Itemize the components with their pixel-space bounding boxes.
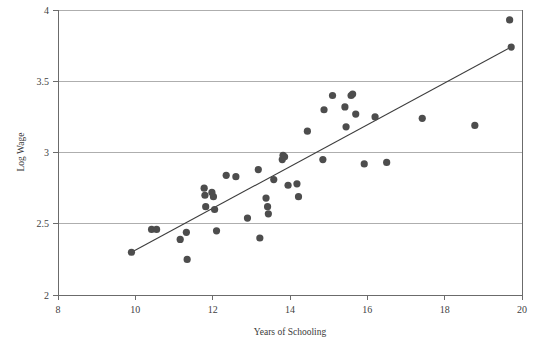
fit-line [131, 47, 511, 252]
data-point [342, 123, 349, 130]
x-axis-title: Years of Schooling [254, 327, 327, 337]
data-point [471, 122, 478, 129]
data-point [256, 234, 263, 241]
data-point [319, 156, 326, 163]
data-point [183, 229, 190, 236]
data-point [232, 173, 239, 180]
data-point [352, 110, 359, 117]
data-point [128, 249, 135, 256]
regression-line [131, 47, 511, 252]
data-point [184, 256, 191, 263]
x-tick-label: 18 [440, 304, 450, 315]
data-point [281, 153, 288, 160]
data-point [201, 185, 208, 192]
x-tick-label: 20 [517, 304, 527, 315]
data-point [341, 103, 348, 110]
data-point [201, 192, 208, 199]
x-tick-label: 8 [56, 304, 61, 315]
data-point [295, 193, 302, 200]
data-point [244, 214, 251, 221]
y-tick-label: 4 [44, 5, 49, 16]
x-tick-label: 12 [208, 304, 218, 315]
y-tick-label: 3.5 [37, 76, 50, 87]
data-point [506, 16, 513, 23]
data-point [361, 160, 368, 167]
data-points [128, 16, 515, 263]
data-point [508, 43, 515, 50]
data-point [202, 203, 209, 210]
x-tick-label: 16 [362, 304, 372, 315]
x-tick-label: 14 [285, 304, 295, 315]
x-tick-label: 10 [130, 304, 140, 315]
data-point [213, 227, 220, 234]
data-point [270, 176, 277, 183]
data-point [349, 90, 356, 97]
data-point [177, 236, 184, 243]
chart-figure: 22.533.548101214161820 Years of Schoolin… [0, 0, 535, 351]
data-point [223, 172, 230, 179]
data-point [371, 113, 378, 120]
data-point [304, 128, 311, 135]
y-tick-label: 2.5 [37, 218, 50, 229]
data-point [211, 206, 218, 213]
scatter-plot: 22.533.548101214161820 Years of Schoolin… [0, 0, 535, 351]
y-tick-label: 2 [44, 290, 49, 301]
data-point [419, 115, 426, 122]
y-axis-title: Log Wage [16, 133, 26, 172]
data-point [320, 106, 327, 113]
y-tick-label: 3 [44, 147, 49, 158]
data-point [293, 180, 300, 187]
data-point [264, 203, 271, 210]
data-point [284, 182, 291, 189]
data-point [153, 226, 160, 233]
gridlines [58, 10, 522, 295]
data-point [210, 193, 217, 200]
data-point [262, 195, 269, 202]
data-point [329, 92, 336, 99]
data-point [265, 210, 272, 217]
data-point [383, 159, 390, 166]
data-point [255, 166, 262, 173]
